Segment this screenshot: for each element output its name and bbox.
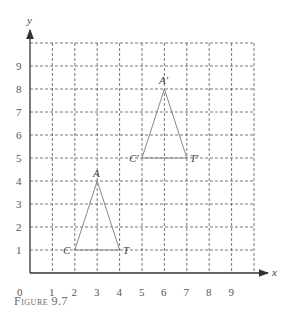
svg-text:4: 4 bbox=[117, 286, 123, 298]
y-axis-label: y bbox=[26, 14, 32, 26]
svg-text:2: 2 bbox=[72, 286, 78, 298]
svg-text:9: 9 bbox=[16, 60, 22, 72]
svg-text:7: 7 bbox=[16, 106, 22, 118]
point-c-label: C bbox=[63, 244, 71, 256]
coordinate-plane: x y 0 1 2 3 4 5 6 7 8 9 1 2 3 4 5 6 7 8 … bbox=[0, 0, 291, 314]
point-c-prime-label: C′ bbox=[129, 152, 139, 164]
figure-caption: Figure 9.7 bbox=[14, 294, 68, 309]
svg-text:8: 8 bbox=[206, 286, 212, 298]
svg-text:5: 5 bbox=[16, 152, 22, 164]
y-tick-labels: 1 2 3 4 5 6 7 8 9 bbox=[16, 60, 22, 256]
svg-text:1: 1 bbox=[16, 244, 22, 256]
svg-text:9: 9 bbox=[229, 286, 235, 298]
svg-text:6: 6 bbox=[161, 286, 167, 298]
svg-text:6: 6 bbox=[16, 129, 22, 141]
point-t-prime-label: T′ bbox=[190, 152, 199, 164]
svg-text:3: 3 bbox=[16, 198, 22, 210]
svg-text:8: 8 bbox=[16, 83, 22, 95]
svg-text:4: 4 bbox=[16, 175, 22, 187]
point-a-prime-label: A′ bbox=[158, 74, 169, 86]
svg-text:3: 3 bbox=[94, 286, 100, 298]
point-a-label: A bbox=[92, 167, 100, 179]
svg-text:2: 2 bbox=[16, 221, 22, 233]
svg-text:7: 7 bbox=[184, 286, 190, 298]
x-axis-label: x bbox=[271, 266, 277, 278]
svg-text:5: 5 bbox=[139, 286, 145, 298]
point-t-label: T bbox=[123, 244, 130, 256]
